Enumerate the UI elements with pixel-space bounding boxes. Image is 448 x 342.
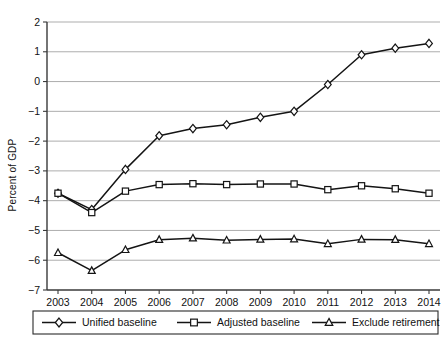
- x-tick-label: 2007: [181, 296, 205, 308]
- x-tick-label: 2004: [80, 296, 104, 308]
- legend-label: Exclude retirement: [352, 316, 440, 328]
- x-tick-label: 2003: [46, 296, 70, 308]
- data-point-marker: [426, 190, 432, 196]
- data-point-marker: [122, 188, 128, 194]
- x-tick-label: 2012: [350, 296, 374, 308]
- y-tick-label: −2: [28, 135, 40, 147]
- x-tick-label: 2009: [249, 296, 273, 308]
- legend-item-unified-baseline[interactable]: Unified baseline: [42, 316, 157, 328]
- data-point-marker: [325, 187, 331, 193]
- data-point-marker: [55, 190, 61, 196]
- y-tick-label: −5: [28, 224, 40, 236]
- data-point-marker: [291, 181, 297, 187]
- y-tick-label: 0: [34, 75, 40, 87]
- x-tick-label: 2010: [282, 296, 306, 308]
- legend-label: Unified baseline: [82, 316, 157, 328]
- y-tick-label: −1: [28, 105, 40, 117]
- y-tick-label: 1: [34, 45, 40, 57]
- data-point-marker: [156, 181, 162, 187]
- y-tick-label: −7: [28, 284, 40, 296]
- y-tick-label: 2: [34, 16, 40, 28]
- chart-figure: 210−1−2−3−4−5−6−7 2003200420052006200720…: [0, 0, 448, 342]
- data-point-marker: [392, 186, 398, 192]
- x-tick-label: 2013: [384, 296, 408, 308]
- x-tick-label: 2005: [114, 296, 138, 308]
- x-tick-label: 2014: [417, 296, 441, 308]
- x-tick-label: 2008: [215, 296, 239, 308]
- y-axis-title: Percent of GDP: [7, 138, 18, 211]
- data-point-marker: [190, 181, 196, 187]
- data-point-marker: [358, 183, 364, 189]
- x-tick-label: 2011: [317, 296, 340, 308]
- x-tick-label: 2006: [148, 296, 172, 308]
- y-tick-label: −6: [28, 254, 40, 266]
- legend-label: Adjusted baseline: [217, 316, 300, 328]
- line-chart: 210−1−2−3−4−5−6−7 2003200420052006200720…: [0, 0, 448, 342]
- legend-marker-square: [191, 319, 198, 326]
- data-point-marker: [89, 209, 95, 215]
- y-tick-label: −3: [28, 164, 40, 176]
- data-point-marker: [224, 181, 230, 187]
- y-tick-label: −4: [28, 194, 40, 206]
- data-point-marker: [257, 181, 263, 187]
